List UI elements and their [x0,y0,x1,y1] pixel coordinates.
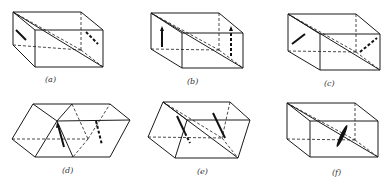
arrow-e-right [213,113,225,138]
label-b: (b) [187,77,198,86]
panel-e [148,102,250,158]
label-e: (e) [197,167,208,176]
label-d: (d) [62,166,73,175]
arrow-e-left [177,116,185,133]
panel-a [13,12,103,67]
label-a: (a) [45,75,56,84]
panel-d [12,104,130,157]
panel-c [288,14,380,70]
panel-f [287,103,378,157]
arrow-right-face [86,32,98,44]
arrow-inclined-left [292,34,305,44]
arrow-d-left [58,125,64,147]
diagram-canvas [0,0,389,186]
label-c: (c) [324,79,335,88]
label-f: (f) [332,168,341,177]
lens-mark [335,124,349,147]
arrow-left-face [16,30,26,40]
arrow-inclined-right [360,38,377,52]
panel-b [151,13,243,68]
